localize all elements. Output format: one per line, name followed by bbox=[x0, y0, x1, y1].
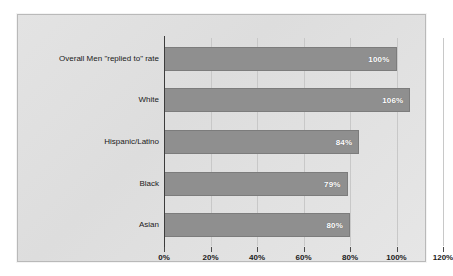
x-tick-label: 80% bbox=[342, 253, 358, 262]
x-tick-mark-100 bbox=[397, 247, 398, 252]
bar-value-label: 84% bbox=[336, 138, 353, 147]
bar-row: 106% bbox=[164, 88, 443, 112]
chart-panel: 100%106%84%79%80% Overall Men "replied t… bbox=[17, 14, 426, 262]
bar: 79% bbox=[164, 172, 348, 196]
bar: 84% bbox=[164, 130, 359, 154]
x-tick-mark-80 bbox=[350, 247, 351, 252]
x-tick-label: 0% bbox=[158, 253, 170, 262]
x-tick-label: 100% bbox=[386, 253, 406, 262]
bar-value-label: 100% bbox=[368, 54, 389, 63]
bar-row: 80% bbox=[164, 213, 443, 237]
category-label: Hispanic/Latino bbox=[29, 137, 159, 146]
x-tick-label: 40% bbox=[249, 253, 265, 262]
x-tick-label: 120% bbox=[433, 253, 453, 262]
bar-row: 100% bbox=[164, 47, 443, 71]
x-tick-mark-40 bbox=[257, 247, 258, 252]
category-label: Overall Men "replied to" rate bbox=[29, 54, 159, 63]
gridline-120 bbox=[443, 38, 444, 246]
bar-value-label: 106% bbox=[382, 96, 403, 105]
bar: 80% bbox=[164, 213, 350, 237]
category-label: Asian bbox=[29, 220, 159, 229]
x-tick-mark-120 bbox=[443, 247, 444, 252]
y-axis-line bbox=[164, 36, 165, 247]
category-label: Black bbox=[29, 179, 159, 188]
bar-row: 79% bbox=[164, 172, 443, 196]
bar: 100% bbox=[164, 47, 397, 71]
category-label: White bbox=[29, 95, 159, 104]
bar-row: 84% bbox=[164, 130, 443, 154]
x-tick-mark-60 bbox=[304, 247, 305, 252]
plot-area: 100%106%84%79%80% bbox=[164, 38, 443, 246]
x-tick-label: 60% bbox=[295, 253, 311, 262]
category-axis-labels: Overall Men "replied to" rateWhiteHispan… bbox=[26, 38, 159, 246]
x-tick-label: 20% bbox=[202, 253, 218, 262]
bar: 106% bbox=[164, 88, 410, 112]
x-axis-tick-labels: 0%20%40%60%80%100%120% bbox=[164, 253, 443, 267]
bar-value-label: 79% bbox=[324, 179, 341, 188]
x-tick-mark-0 bbox=[164, 247, 165, 252]
bar-value-label: 80% bbox=[326, 221, 343, 230]
x-tick-mark-20 bbox=[211, 247, 212, 252]
